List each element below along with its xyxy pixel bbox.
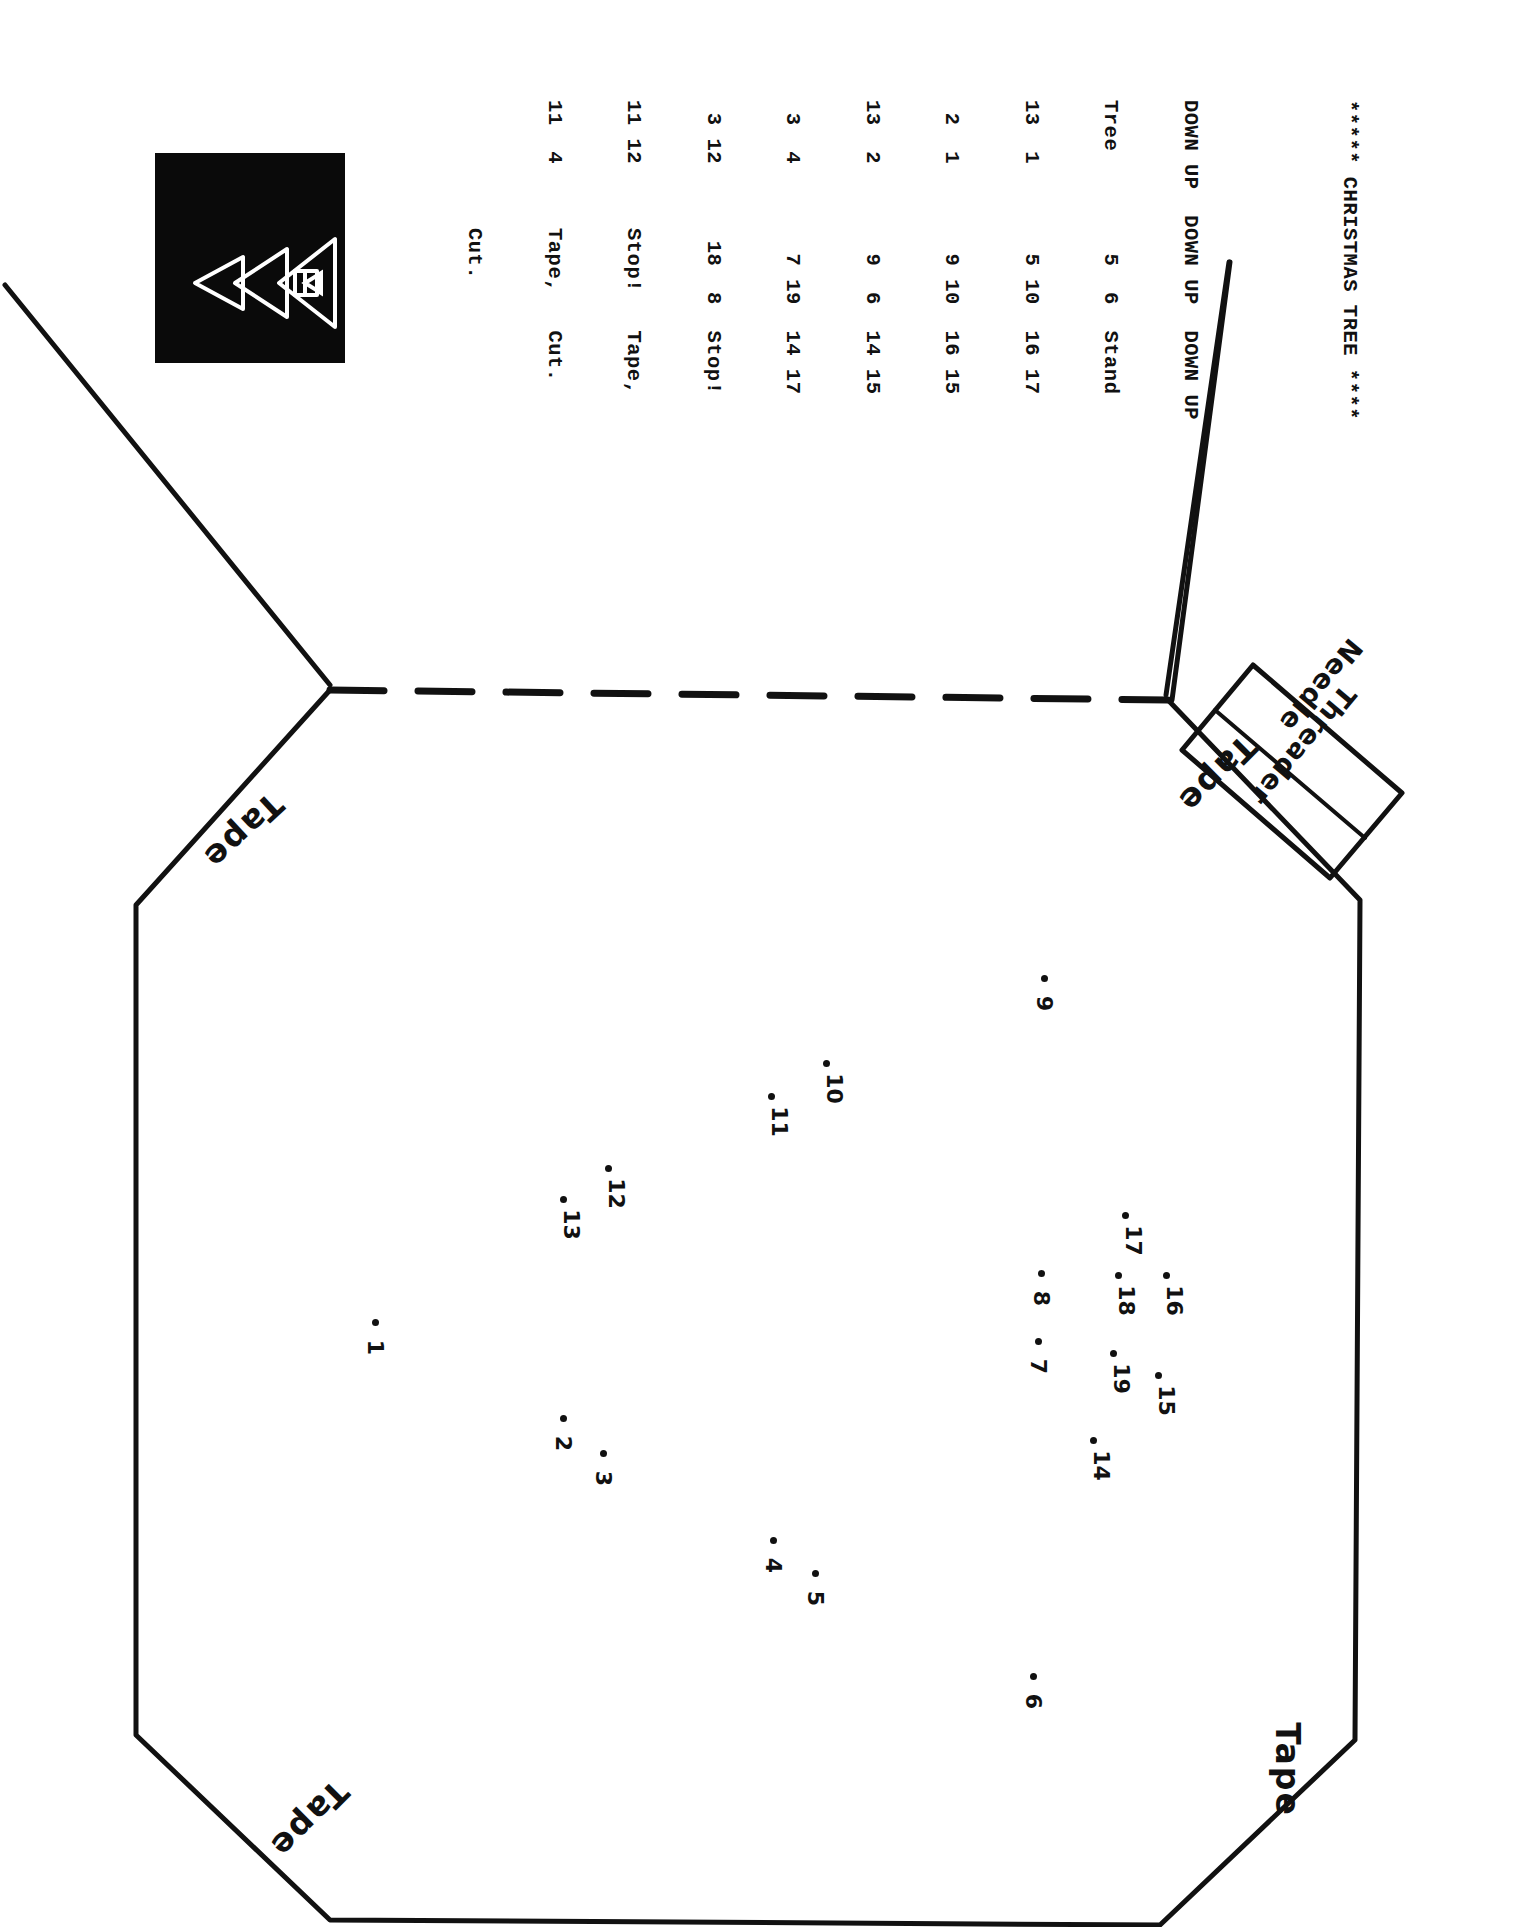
pattern-dot-label: 10 [822, 1073, 847, 1104]
pattern-dot-label: 8 [1029, 1291, 1054, 1306]
pattern-dot-label: 5 [803, 1591, 828, 1606]
pattern-dot-label: 4 [761, 1558, 786, 1573]
pattern-dot-label: 14 [1089, 1450, 1114, 1481]
flap-edge-left [5, 285, 330, 685]
pattern-dot [823, 1060, 830, 1067]
pattern-dot [1041, 975, 1048, 982]
pattern-dot [1030, 1673, 1037, 1680]
pattern-dot-label: 13 [559, 1209, 584, 1240]
pattern-dot [605, 1165, 612, 1172]
pattern-dot [560, 1196, 567, 1203]
pattern-dot-label: 2 [551, 1436, 576, 1451]
pattern-dot-label: 15 [1154, 1385, 1179, 1416]
scanned-page: ***** CHRISTMAS TREE **** DOWN UP DOWN U… [0, 0, 1534, 1927]
pattern-dot-label: 12 [604, 1178, 629, 1209]
pattern-dot [1090, 1437, 1097, 1444]
pattern-dot [1122, 1212, 1129, 1219]
pattern-dot [372, 1319, 379, 1326]
tape-label-bottom-right: Tape [1268, 1722, 1307, 1817]
pattern-drawing [0, 0, 1534, 1927]
pattern-dot [812, 1570, 819, 1577]
fold-line-dashed [330, 690, 1168, 700]
pattern-dot-label: 18 [1114, 1285, 1139, 1316]
pattern-dot [1115, 1272, 1122, 1279]
pattern-dot [768, 1093, 775, 1100]
pattern-dot-label: 17 [1121, 1225, 1146, 1256]
pattern-dot-label: 6 [1021, 1694, 1046, 1709]
pattern-dot [1163, 1272, 1170, 1279]
pattern-dot-label: 7 [1026, 1359, 1051, 1374]
pattern-dot-label: 19 [1109, 1363, 1134, 1394]
pattern-dot [1035, 1338, 1042, 1345]
pattern-dot [600, 1450, 607, 1457]
pattern-dot [1155, 1372, 1162, 1379]
pattern-dot [1110, 1350, 1117, 1357]
pattern-dot-label: 1 [363, 1340, 388, 1355]
pattern-dot-label: 16 [1162, 1285, 1187, 1316]
pattern-dot-label: 9 [1032, 996, 1057, 1011]
pattern-dot [1038, 1270, 1045, 1277]
pattern-dot-label: 3 [591, 1471, 616, 1486]
pattern-dot [770, 1537, 777, 1544]
pattern-dot [560, 1415, 567, 1422]
pattern-dot-label: 11 [767, 1106, 792, 1137]
